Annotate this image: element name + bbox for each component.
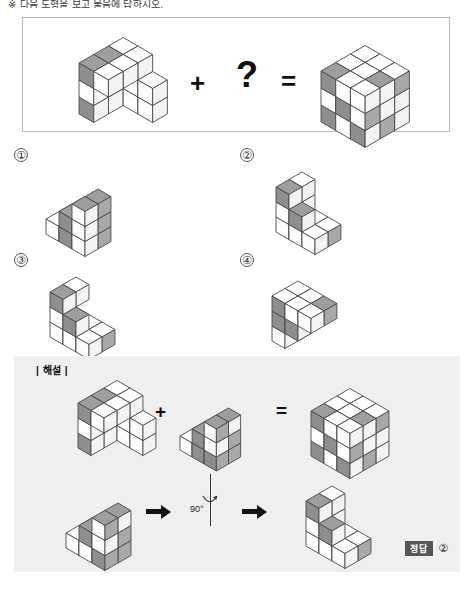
worksheet-page: ※ 다음 도형을 보고 물음에 답하시오. + ? = ① ② ③	[0, 0, 474, 590]
rotation-degrees-label: 90°	[190, 504, 204, 514]
explanation-plus-operator: +	[155, 402, 166, 421]
option-3-number: ③	[14, 253, 28, 267]
question-mark: ?	[236, 57, 258, 93]
option-1-shape	[36, 146, 166, 246]
question-result-cube	[311, 26, 446, 131]
option-2-number: ②	[240, 148, 254, 162]
isometric-shape-svg	[262, 251, 392, 351]
explanation-result-cube	[301, 368, 426, 463]
answer-value: ②	[438, 542, 448, 555]
explanation-equals-operator: =	[276, 401, 287, 420]
explanation-panel: | 해설 | + = 90°	[14, 356, 460, 572]
page-heading-clipped: ※ 다음 도형을 보고 물음에 답하시오.	[8, 0, 308, 8]
plus-operator: +	[190, 70, 205, 96]
option-4-shape	[262, 251, 392, 351]
question-box: + ? =	[22, 17, 450, 132]
option-4-number: ④	[240, 253, 254, 267]
isometric-cube-svg	[311, 26, 446, 131]
explanation-shape-b	[172, 370, 292, 462]
option-3-shape	[36, 251, 166, 351]
answer-tag-label: 정답	[405, 541, 433, 556]
isometric-shape-svg	[262, 146, 392, 246]
option-1-number: ①	[14, 148, 28, 162]
answer-badge: 정답 ②	[405, 541, 448, 556]
isometric-shape-svg	[172, 370, 292, 462]
equals-operator: =	[281, 68, 296, 94]
isometric-shape-svg	[61, 26, 201, 131]
option-2-shape	[262, 146, 392, 246]
question-left-shape	[61, 26, 201, 131]
isometric-shape-svg	[36, 251, 166, 351]
isometric-cube-svg	[301, 368, 426, 463]
isometric-shape-svg	[36, 146, 166, 246]
question-equation-row: + ? =	[23, 18, 449, 131]
rotation-curve-icon	[192, 474, 232, 528]
